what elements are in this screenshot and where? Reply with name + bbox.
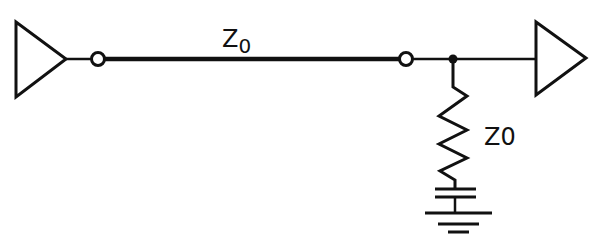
termination-impedance-label: Z0 <box>484 123 516 151</box>
capacitor-icon <box>435 189 476 213</box>
load-node-circle <box>400 53 413 66</box>
source-node-circle <box>92 53 105 66</box>
receiver-buffer <box>536 22 586 95</box>
driver-triangle-icon <box>16 22 66 97</box>
line-impedance-subscript: 0 <box>238 34 251 58</box>
circuit-diagram: Z0 Z0 <box>0 0 597 247</box>
line-impedance-label: Z0 <box>222 25 251 58</box>
ground-icon <box>425 213 492 232</box>
termination-resistor-icon <box>439 59 467 189</box>
receiver-triangle-icon <box>536 22 586 95</box>
line-impedance-main: Z <box>222 25 238 53</box>
driver-buffer <box>16 22 66 97</box>
